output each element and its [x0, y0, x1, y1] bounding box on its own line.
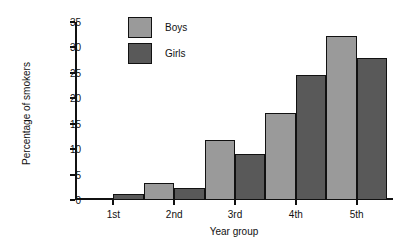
bar-4th-boys — [265, 113, 295, 200]
y-tick-label: 25 — [55, 67, 81, 78]
y-tick-label: 0 — [55, 195, 81, 206]
bar-3rd-boys — [205, 140, 235, 200]
bar-2nd-boys — [144, 183, 174, 200]
legend-item-boys: Boys — [128, 14, 187, 40]
bar-4th-girls — [296, 75, 326, 200]
bar-5th-boys — [326, 36, 356, 200]
y-tick-label: 20 — [55, 93, 81, 104]
bar-chart: Percentage of smokers 05101520253035 1st… — [0, 0, 399, 250]
legend-swatch-girls — [128, 43, 152, 64]
y-tick-label: 5 — [55, 169, 81, 180]
y-tick-label: 15 — [55, 118, 81, 129]
x-tick-label: 3rd — [213, 209, 257, 220]
x-tick-label: 5th — [335, 209, 379, 220]
bar-3rd-girls — [235, 154, 265, 200]
y-tick-label: 30 — [55, 42, 81, 53]
bar-1st-girls — [113, 194, 143, 200]
legend-label-girls: Girls — [165, 48, 186, 59]
y-tick-label: 10 — [55, 144, 81, 155]
x-tick-label: 1st — [91, 209, 135, 220]
y-tick-label: 35 — [55, 17, 81, 28]
bar-5th-girls — [357, 58, 387, 200]
y-axis-title: Percentage of smokers — [21, 44, 32, 184]
x-tick-label: 4th — [274, 209, 318, 220]
x-tick-label: 2nd — [152, 209, 196, 220]
bar-2nd-girls — [174, 188, 204, 200]
plot-area: 05101520253035 1st2nd3rd4th5th — [75, 22, 393, 200]
x-tick — [295, 200, 297, 205]
x-axis-title: Year group — [75, 226, 393, 237]
x-tick — [173, 200, 175, 205]
legend-item-girls: Girls — [128, 40, 187, 66]
legend-label-boys: Boys — [165, 22, 187, 33]
x-tick — [234, 200, 236, 205]
bar-1st-boys — [83, 198, 113, 200]
x-tick — [112, 200, 114, 205]
legend: BoysGirls — [128, 14, 187, 66]
x-tick — [356, 200, 358, 205]
legend-swatch-boys — [128, 17, 152, 38]
